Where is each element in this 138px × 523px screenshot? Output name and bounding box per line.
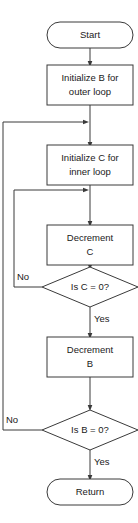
node-return[interactable]: Return <box>47 479 133 505</box>
node-initialize-b-label-line1: Initialize B for <box>61 72 118 83</box>
node-start[interactable]: Start <box>47 22 133 48</box>
edge-label-test-c-yes: Yes <box>94 313 110 324</box>
node-decrement-b-label-line1: Decrement <box>67 344 114 355</box>
node-decrement-c-label-line1: Decrement <box>67 232 114 243</box>
edge-label-test-c-no: No <box>17 271 29 282</box>
node-test-c-label: Is C = 0? <box>71 281 109 292</box>
flowchart-canvas: back up to Decrement C inbound line (inn… <box>0 0 138 523</box>
node-decrement-c-label-line2: C <box>87 246 94 257</box>
node-test-b-label: Is B = 0? <box>71 424 109 435</box>
node-test-c[interactable]: Is C = 0? <box>42 267 138 307</box>
node-decrement-b[interactable]: Decrement B <box>47 337 133 377</box>
node-initialize-c-label-line1: Initialize C for <box>61 152 119 163</box>
node-initialize-b-label-line2: outer loop <box>69 86 111 97</box>
node-initialize-c[interactable]: Initialize C for inner loop <box>47 145 133 185</box>
edge-label-test-b-yes: Yes <box>94 456 110 467</box>
node-test-b[interactable]: Is B = 0? <box>42 410 138 450</box>
node-decrement-b-label-line2: B <box>87 358 93 369</box>
node-decrement-c[interactable]: Decrement C <box>47 225 133 265</box>
edge-label-test-b-no: No <box>6 414 18 425</box>
node-initialize-c-label-line2: inner loop <box>69 166 111 177</box>
node-initialize-b[interactable]: Initialize B for outer loop <box>47 65 133 105</box>
node-start-label: Start <box>80 29 100 40</box>
node-return-label: Return <box>76 486 105 497</box>
